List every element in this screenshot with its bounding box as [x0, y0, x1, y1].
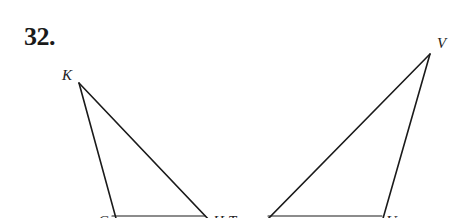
vertex-label-K: K [61, 67, 73, 83]
vertex-label-T: T [228, 213, 238, 218]
segment-VT [265, 54, 430, 218]
vertex-label-V: V [437, 35, 448, 51]
vertex-label-G: G [98, 213, 109, 218]
geometry-figure: K V G H T U [0, 0, 465, 218]
segment-KH [79, 83, 211, 218]
vertex-label-U: U [386, 213, 398, 218]
vertex-label-H: H [212, 213, 225, 218]
